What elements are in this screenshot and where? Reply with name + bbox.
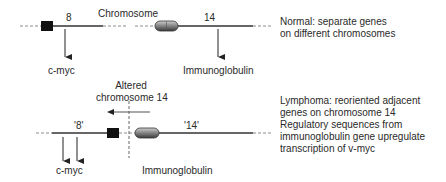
c-myc-label: c-myc [48,65,75,77]
altered-chromosome-14 [36,128,272,138]
immunoglobulin-label: Immunoglobulin [183,65,254,77]
chromosome-14-label: 14 [204,12,215,24]
caption-line: Normal: separate genes [280,16,395,28]
caption-line: immunoglobulin gene upregulate [280,131,425,143]
chromosome-8-label: 8 [66,12,72,24]
c-myc-gene-box [41,21,53,31]
immunoglobulin-label: Immunoglobulin [142,165,213,177]
caption-line: genes on chromosome 14 [280,107,425,119]
segment-8-label: '8' [74,120,83,132]
altered-label: Altered chromosome 14 [96,80,166,104]
caption-line: Regulatory sequences from [280,119,425,131]
caption-line: Lymphoma: reoriented adjacent [280,95,425,107]
segment-14-label: '14' [184,120,199,132]
immunoglobulin-gene-oval [135,128,159,138]
normal-chromosome-8 [20,21,126,31]
caption-line: transcription of v-myc [280,143,425,155]
caption-line: on different chromosomes [280,28,395,40]
c-myc-gene-box [107,128,119,138]
lymphoma-caption: Lymphoma: reoriented adjacent genes on c… [280,95,425,155]
normal-caption: Normal: separate genes on different chro… [280,16,395,40]
altered-line: chromosome 14 [96,92,166,104]
chromosome-title: Chromosome [98,8,158,20]
altered-line: Altered [96,80,166,92]
c-myc-label: c-myc [56,165,83,177]
